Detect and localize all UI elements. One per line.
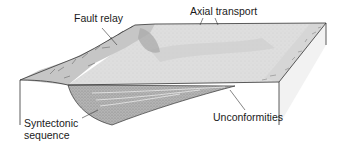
label-syntectonic-sequence: Syntectonic sequence bbox=[24, 117, 78, 141]
label-axial-transport: Axial transport bbox=[190, 5, 257, 17]
label-unconformities: Unconformities bbox=[213, 111, 283, 123]
label-syntectonic-line2: sequence bbox=[24, 129, 78, 141]
label-fault-relay: Fault relay bbox=[74, 12, 123, 24]
label-syntectonic-line1: Syntectonic bbox=[24, 117, 78, 129]
